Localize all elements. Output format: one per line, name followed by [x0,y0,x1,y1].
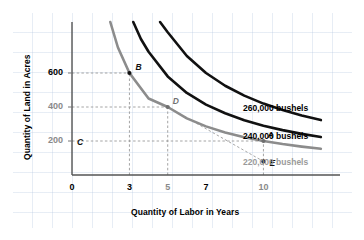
axes-layer [68,22,340,175]
point-label-B: B [135,62,141,72]
point-label-C: C [77,137,83,147]
curve-label-240: 240,000 bushels [243,131,308,141]
x-axis-title: Quantity of Labor in Years [131,207,239,217]
x-tick-label-10: 10 [252,182,274,192]
data-points-layer [127,71,265,164]
x-tick-label-7: 7 [195,182,217,192]
data-point-D[interactable] [166,105,170,109]
y-axis-title: Quantity of Land in Acres [22,54,32,160]
isoquant-curve-1 [133,22,321,137]
chart-figure: Quantity of Land in Acres Quantity of La… [0,0,364,240]
guide-lines-layer [72,73,263,175]
x-tick-label-5: 5 [157,182,179,192]
x-tick-label-0: 0 [61,182,83,192]
x-tick-label-3: 3 [118,182,140,192]
y-tick-label-200: 200 [41,135,63,145]
y-tick-label-600: 600 [41,67,63,77]
y-tick-label-400: 400 [41,101,63,111]
point-label-D: D [173,96,179,106]
isoquant-curves-layer [110,22,321,149]
isoquant-plot [0,0,364,240]
curve-label-260: 260,000 bushels [243,103,308,113]
curve-label-220: 220,000 bushels [243,157,308,167]
data-point-B[interactable] [127,71,131,75]
